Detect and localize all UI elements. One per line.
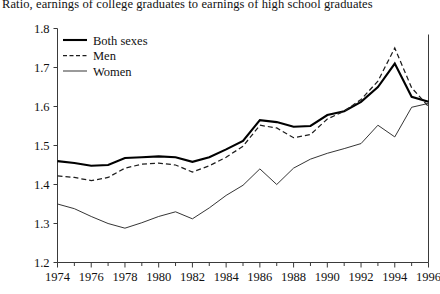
x-tick-label: 1986 [247,270,272,284]
x-tick-label: 1992 [349,270,374,284]
y-tick-label: 1.7 [34,61,50,75]
chart-figure: Ratio, earnings of college graduates to … [0,0,440,294]
x-tick-label: 1982 [180,270,205,284]
x-axis-tick-marks [58,263,429,268]
y-axis-tick-marks [54,29,58,263]
x-tick-label: 1978 [112,270,137,284]
y-tick-label: 1.8 [34,22,50,36]
line-chart-plot: 1.21.31.41.51.61.71.8 197419761978198019… [0,0,440,294]
x-tick-label: 1988 [281,270,306,284]
x-tick-label: 1994 [382,270,408,284]
y-tick-label: 1.6 [34,100,50,114]
x-axis-tick-labels: 1974197619781980198219841986198819901992… [45,270,440,284]
x-tick-label: 1984 [214,270,240,284]
x-tick-label: 1980 [146,270,171,284]
x-tick-label: 1990 [315,270,340,284]
x-tick-label: 1996 [416,270,440,284]
y-tick-label: 1.2 [34,256,50,270]
legend-label-both-sexes: Both sexes [93,34,148,48]
series-line-both-sexes [58,64,429,166]
y-axis-tick-labels: 1.21.31.41.51.61.71.8 [34,22,50,270]
x-tick-label: 1974 [45,270,71,284]
series-line-women [58,103,429,228]
legend-label-men: Men [93,49,117,63]
y-tick-label: 1.3 [34,217,50,231]
y-tick-label: 1.5 [34,139,50,153]
y-tick-label: 1.4 [34,178,50,192]
chart-legend: Both sexesMenWomen [63,34,148,79]
legend-label-women: Women [93,65,132,79]
x-tick-label: 1976 [79,270,104,284]
